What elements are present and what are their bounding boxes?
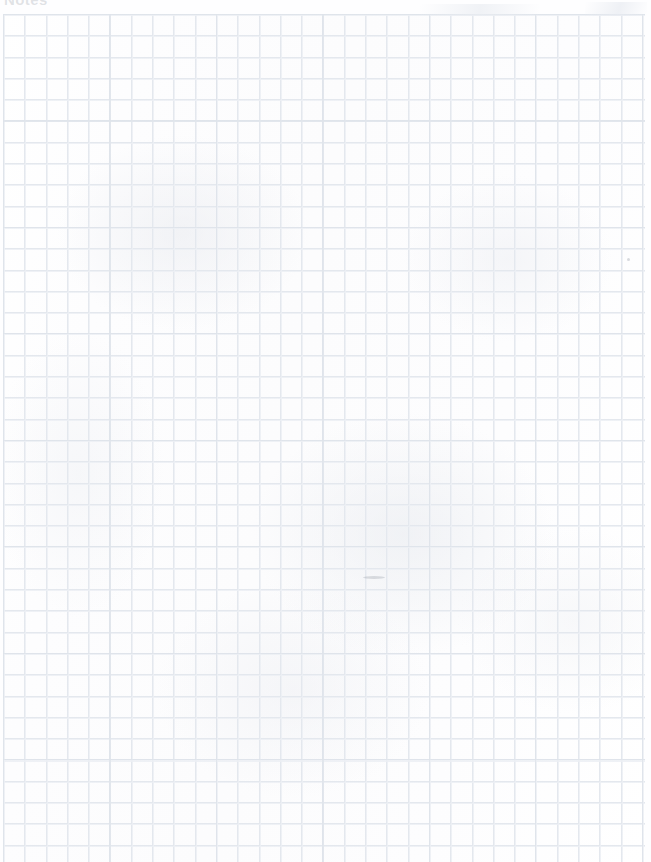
page-margin-right [645, 0, 651, 862]
page-margin-top [0, 0, 651, 14]
page-margin-left [0, 0, 3, 862]
pencil-smudge-artifact [363, 576, 385, 579]
scan-speck-artifact [627, 258, 630, 261]
page-title: Notes [4, 0, 48, 8]
scanned-page: Notes [0, 0, 651, 862]
grid-lines [3, 14, 645, 862]
